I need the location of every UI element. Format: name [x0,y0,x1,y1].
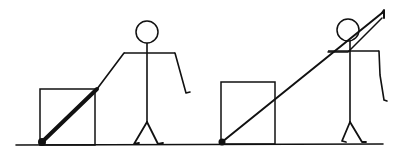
panel-left [38,21,190,146]
stick-figure-left [124,21,190,144]
head-left [136,21,158,43]
box-right [221,82,275,144]
diagram-canvas [0,0,403,159]
leg-left-b [147,122,163,144]
pole-tip-right [219,139,226,146]
leg-right-b [350,122,366,142]
free-arm-right [379,51,387,101]
pole-tip-left [38,138,46,146]
free-arm-left [175,53,190,93]
stick-figure-right [328,19,387,142]
panel-right [219,10,388,146]
lever-pole-left [42,89,97,142]
head-right [337,19,359,41]
lever-diagram [0,0,403,159]
arm-on-pole-left [97,53,124,89]
leg-right-a [342,122,350,142]
leg-left-a [134,122,147,144]
